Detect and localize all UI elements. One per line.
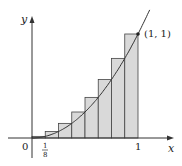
riemann-rectangle [125, 34, 138, 138]
origin-label: 0 [22, 141, 28, 152]
x-axis-label: x [168, 142, 175, 155]
fraction-denominator: 8 [43, 151, 47, 159]
point-label: (1, 1) [144, 28, 171, 39]
riemann-rectangle [85, 97, 98, 138]
riemann-sum-diagram: y x 0 1 1 8 (1, 1) [0, 0, 182, 166]
riemann-rectangles [32, 34, 138, 138]
riemann-rectangle [72, 112, 85, 138]
tick-one-label: 1 [135, 141, 141, 152]
x-axis-arrow-icon [167, 136, 174, 141]
fraction-numerator: 1 [43, 142, 47, 150]
y-axis-arrow-icon [30, 16, 35, 23]
y-axis-label: y [20, 13, 28, 26]
point-marker [136, 32, 140, 36]
